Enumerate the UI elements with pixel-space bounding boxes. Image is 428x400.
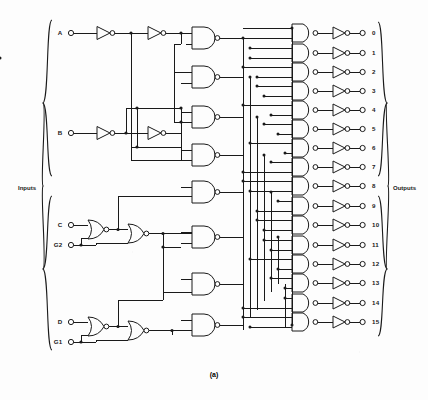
nand-gate-output [292, 236, 309, 254]
nor-bubble-stage2-C [144, 231, 149, 236]
nand-output-bubble [313, 165, 318, 170]
nand-gate-driver-1 [186, 27, 243, 49]
input-label-C: C [58, 221, 63, 228]
nand-output-bubble [313, 281, 318, 286]
inverter-output-bubble [345, 223, 350, 228]
nand-output-bubble [313, 184, 318, 189]
output-inverter [333, 180, 345, 192]
nand-gate-output [292, 216, 309, 234]
output-terminal[interactable] [360, 50, 365, 55]
nand-output-bubble [313, 320, 318, 325]
figure-caption: (a) [210, 371, 219, 378]
output-terminal[interactable] [360, 164, 365, 169]
nand-gate-output [292, 313, 309, 331]
nand-gate-driver-2 [174, 66, 243, 88]
output-row: 12 [292, 255, 380, 273]
nand-gate-output [292, 120, 309, 138]
output-terminal[interactable] [360, 300, 365, 305]
output-row: 8 [292, 177, 376, 195]
output-inverter [333, 66, 345, 78]
inverter-output-bubble [345, 243, 350, 248]
inverter-output-bubble [345, 89, 350, 94]
output-label: 11 [372, 241, 379, 248]
ab-distribution-rails [126, 33, 183, 160]
nand-output-bubble [313, 127, 318, 132]
output-inverter [333, 239, 345, 251]
inputs-section-label: Inputs [18, 185, 37, 191]
nand-gate-output [292, 177, 309, 195]
output-terminal[interactable] [360, 69, 365, 74]
nand-gate-driver-4 [181, 144, 243, 166]
input-terminals: A B C G2 D G1 [54, 29, 74, 345]
output-terminal[interactable] [360, 183, 365, 188]
nand-gate-output [292, 274, 309, 292]
input-inverter-chain-B [74, 122, 181, 140]
output-terminal[interactable] [360, 126, 365, 131]
nor-bubble-stage2-D [144, 328, 149, 333]
input-label-B: B [58, 129, 63, 136]
nand-gate-output [292, 44, 309, 62]
output-row: 7 [292, 158, 376, 176]
nand-output-bubble [313, 262, 318, 267]
nand-gate-driver-7 [181, 273, 243, 295]
output-label: 7 [372, 163, 376, 170]
inputs-brace [42, 20, 52, 350]
output-label: 6 [372, 144, 376, 151]
output-terminal[interactable] [360, 145, 365, 150]
input-terminal-C[interactable] [68, 222, 73, 227]
figure-canvas: A B C G2 D G1 Inputs Outputs [0, 0, 428, 400]
nand-gate-driver-3 [181, 106, 243, 128]
inverter-output-bubble [345, 184, 350, 189]
outputs-section-label: Outputs [393, 185, 417, 191]
nand-gate-output [292, 294, 309, 312]
output-inverter [333, 85, 345, 97]
output-inverter [333, 142, 345, 154]
input-terminal-A[interactable] [68, 30, 73, 35]
output-terminal[interactable] [360, 30, 365, 35]
output-label: 14 [372, 299, 380, 306]
nand-output-bubble [313, 89, 318, 94]
output-terminal[interactable] [360, 222, 365, 227]
nand-gate-driver-5 [181, 181, 243, 203]
output-label: 9 [372, 202, 376, 209]
output-inverter [333, 27, 345, 39]
output-terminal[interactable] [360, 107, 365, 112]
output-row: 0 [292, 24, 376, 42]
output-inverter [333, 277, 345, 289]
output-terminal[interactable] [360, 280, 365, 285]
output-terminal[interactable] [360, 319, 365, 324]
inverter-output-bubble [345, 281, 350, 286]
input-terminal-B[interactable] [68, 130, 73, 135]
output-row: 15 [292, 313, 380, 331]
inverter-output-bubble [345, 51, 350, 56]
output-inverter [333, 316, 345, 328]
output-row: 2 [292, 63, 376, 81]
output-row: 9 [292, 197, 376, 215]
output-label: 0 [372, 29, 376, 36]
output-terminal[interactable] [360, 261, 365, 266]
nand-gate-output [292, 197, 309, 215]
input-terminal-D[interactable] [68, 319, 73, 324]
input-label-A: A [58, 29, 63, 36]
output-row: 13 [292, 274, 380, 292]
output-label: 8 [372, 182, 376, 189]
output-inverter [333, 123, 345, 135]
enable-logic-C-G2 [74, 196, 192, 292]
output-row: 14 [292, 294, 380, 312]
output-label: 4 [372, 106, 376, 113]
output-label: 10 [372, 221, 380, 228]
output-label: 5 [372, 125, 376, 132]
nor-bubble-D-G1 [104, 324, 109, 329]
inverter-output-bubble [345, 320, 350, 325]
output-terminal[interactable] [360, 203, 365, 208]
output-inverter [333, 104, 345, 116]
input-terminal-G1[interactable] [68, 339, 73, 344]
input-terminal-G2[interactable] [68, 242, 73, 247]
inverter-output-bubble [345, 31, 350, 36]
inverter-output-bubble [345, 165, 350, 170]
inverter-bubble-B2 [161, 131, 166, 136]
output-terminal[interactable] [360, 88, 365, 93]
output-terminal[interactable] [360, 242, 365, 247]
output-label: 15 [372, 318, 380, 325]
output-label: 3 [372, 87, 376, 94]
